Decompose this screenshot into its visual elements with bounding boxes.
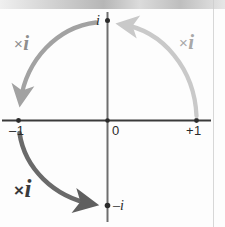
arc-label-plus-one-to-i: ×i: [179, 32, 195, 53]
mult-symbol-icon: ×: [179, 34, 188, 51]
arc-label-i-to-minus-one: ×i: [14, 33, 30, 54]
point-origin: [105, 118, 110, 123]
point-plus-i: [105, 18, 110, 23]
axis-label-origin: 0: [112, 124, 120, 137]
arc-i-to-minus-one: [21, 23, 97, 102]
axis-label-minus-i: –i: [113, 199, 124, 213]
mult-operand: i: [188, 30, 194, 54]
arc-label-minus-one-to-minus-i: ×i: [14, 176, 32, 201]
axis-label-minus-one: –1: [9, 124, 24, 137]
axis-label-plus-one: +1: [186, 124, 202, 137]
complex-plane-figure: –1 0 +1 i –i ×i ×i ×i: [0, 0, 225, 227]
mult-operand: i: [24, 175, 31, 202]
axis-label-plus-i: i: [96, 14, 100, 28]
mult-operand: i: [23, 31, 29, 55]
mult-symbol-icon: ×: [14, 181, 24, 200]
mult-symbol-icon: ×: [14, 35, 23, 52]
point-minus-i: [105, 203, 111, 209]
